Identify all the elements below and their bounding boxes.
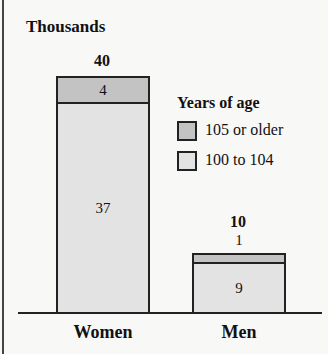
women-segment-100-to-104: 37 (58, 104, 148, 313)
men-segment-100-value: 9 (235, 280, 243, 297)
women-total-label: 40 (72, 52, 132, 70)
category-label-women: Women (53, 322, 153, 343)
legend-label-105-or-older: 105 or older (205, 121, 283, 139)
legend-swatch-105-or-older (177, 121, 197, 141)
frame-left-border (2, 0, 4, 354)
men-segment-105-value: 1 (219, 232, 259, 249)
women-segment-100-value: 37 (96, 200, 111, 217)
women-segment-105-or-older: 4 (58, 78, 148, 104)
women-segment-105-value: 4 (99, 82, 107, 99)
x-axis-baseline (18, 312, 322, 314)
men-segment-100-to-104: 9 (194, 264, 284, 313)
legend-swatch-100-to-104 (177, 151, 197, 171)
men-segment-105-or-older (194, 255, 284, 264)
men-bar: 9 (192, 253, 286, 313)
legend-label-100-to-104: 100 to 104 (205, 151, 273, 169)
category-label-men: Men (189, 322, 289, 343)
y-axis-label: Thousands (26, 17, 105, 37)
men-total-label: 10 (208, 213, 268, 231)
women-bar: 4 37 (56, 76, 150, 313)
legend-title: Years of age (177, 94, 260, 112)
